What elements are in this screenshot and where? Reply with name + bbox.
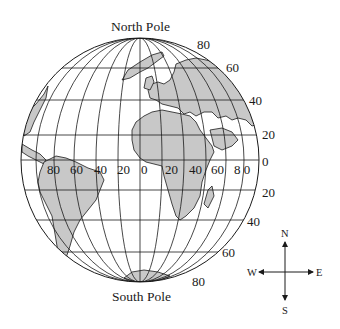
latitude-label-20s: 20: [262, 186, 275, 199]
longitude-label-20e: 20: [165, 163, 178, 176]
latitude-label-80s: 80: [192, 275, 205, 288]
latitude-label-60s: 60: [222, 246, 235, 259]
compass-label-north: N: [281, 227, 289, 240]
compass-label-south: S: [282, 304, 288, 317]
longitude-label-40e: 40: [189, 163, 202, 176]
longitude-label-80w: 80: [47, 163, 60, 176]
latitude-label-20n: 20: [262, 128, 275, 141]
latitude-label-40s: 40: [247, 215, 260, 228]
latitude-label-40n: 40: [249, 94, 262, 107]
compass-label-west: W: [247, 266, 257, 279]
longitude-label-60w: 60: [70, 163, 83, 176]
latitude-label-80n: 80: [197, 38, 210, 51]
latitude-label-equator: 0: [262, 155, 269, 168]
longitude-label-0: 0: [141, 163, 148, 176]
longitude-label-60e: 60: [211, 163, 224, 176]
longitude-label-40w: 40: [94, 163, 107, 176]
longitude-label-80e: 8 0: [234, 163, 250, 176]
compass-rose: [259, 242, 313, 300]
compass-label-east: E: [316, 266, 322, 279]
latitude-label-60n: 60: [226, 61, 239, 74]
longitude-label-20w: 20: [117, 163, 130, 176]
south-pole-label: South Pole: [112, 290, 171, 303]
north-pole-label: North Pole: [111, 20, 170, 33]
